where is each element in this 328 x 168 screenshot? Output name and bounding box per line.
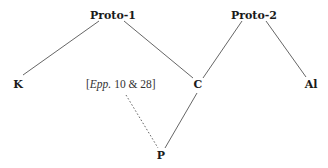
edge-proto1-to-c bbox=[124, 21, 193, 78]
node-c: C bbox=[194, 78, 203, 91]
annotation-epp: [Epp. 10 & 28] bbox=[86, 78, 156, 91]
edge-c-to-p bbox=[165, 93, 197, 148]
stemma-diagram: Proto-1 Proto-2 K C Al P [Epp. 10 & 28] bbox=[0, 0, 328, 168]
annotation-epp-numbers: 10 & 28] bbox=[111, 78, 155, 90]
node-al: Al bbox=[304, 78, 318, 91]
node-p: P bbox=[157, 149, 165, 162]
node-k: K bbox=[13, 78, 23, 91]
node-proto-2: Proto-2 bbox=[231, 9, 277, 22]
edge-proto2-to-c bbox=[203, 21, 242, 78]
annotation-epp-italic: Epp. bbox=[89, 78, 111, 91]
edge-epp-to-p-dotted bbox=[126, 95, 158, 148]
node-proto-1: Proto-1 bbox=[90, 9, 136, 22]
edge-proto2-to-al bbox=[266, 21, 306, 77]
edge-proto1-to-k bbox=[23, 21, 99, 75]
